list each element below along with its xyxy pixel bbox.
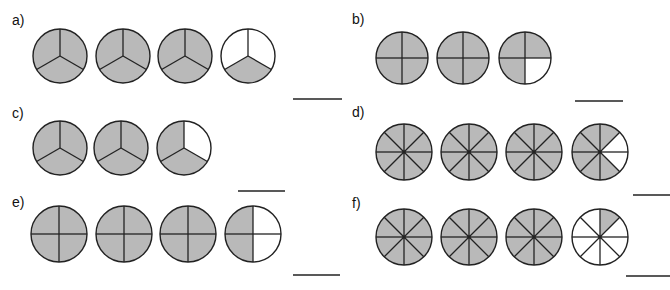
- fraction-circle: [157, 121, 211, 175]
- fraction-circle: [160, 206, 216, 262]
- problem-b: b): [352, 11, 623, 101]
- fraction-circle: [572, 209, 628, 265]
- center-dot: [467, 150, 471, 154]
- center-dot: [598, 235, 602, 239]
- fraction-circle: [96, 206, 152, 262]
- problem-c: c): [12, 105, 285, 191]
- problem-a: a): [12, 12, 342, 99]
- problem-label: c): [12, 105, 24, 121]
- problem-label: a): [12, 12, 24, 28]
- fraction-circle: [158, 29, 212, 83]
- fraction-circle: [96, 29, 150, 83]
- problem-label: e): [12, 194, 24, 210]
- problem-label: f): [352, 195, 361, 211]
- fraction-circle: [506, 209, 562, 265]
- center-dot: [598, 150, 602, 154]
- problem-d: d): [352, 104, 670, 195]
- fraction-circle: [221, 29, 275, 83]
- center-dot: [532, 150, 536, 154]
- fraction-circle: [376, 32, 428, 84]
- fraction-worksheet: a)b)c)d)e)f): [0, 0, 670, 290]
- fraction-circle: [441, 209, 497, 265]
- fraction-circle: [441, 124, 497, 180]
- fraction-circle: [499, 32, 551, 84]
- fraction-circle: [572, 124, 628, 180]
- problem-f: f): [352, 195, 670, 276]
- problem-label: b): [352, 11, 364, 27]
- problem-label: d): [352, 104, 364, 120]
- fraction-circle: [33, 121, 87, 175]
- fraction-circle: [225, 206, 281, 262]
- center-dot: [402, 150, 406, 154]
- problem-e: e): [12, 194, 340, 275]
- fraction-circle: [31, 206, 87, 262]
- problems-group: a)b)c)d)e)f): [12, 11, 670, 276]
- fraction-circle: [33, 29, 87, 83]
- center-dot: [402, 235, 406, 239]
- fraction-circle: [376, 124, 432, 180]
- fraction-circle: [506, 124, 562, 180]
- fraction-circle: [376, 209, 432, 265]
- center-dot: [467, 235, 471, 239]
- fraction-circle: [94, 121, 148, 175]
- center-dot: [532, 235, 536, 239]
- fraction-circle: [437, 32, 489, 84]
